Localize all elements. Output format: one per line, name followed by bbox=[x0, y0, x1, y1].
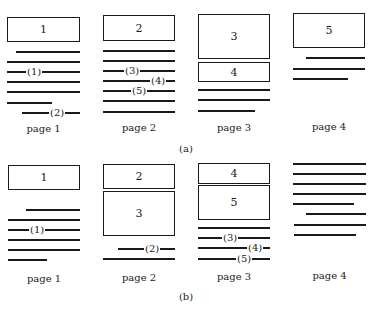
text-line bbox=[294, 224, 366, 226]
text-line bbox=[198, 227, 270, 229]
text-line bbox=[8, 249, 80, 251]
text-line bbox=[26, 209, 80, 211]
text-line bbox=[294, 234, 356, 236]
text-line bbox=[8, 239, 80, 241]
page-label: page 1 bbox=[4, 273, 84, 284]
figure-box: 1 bbox=[7, 17, 80, 42]
text-line bbox=[293, 163, 366, 165]
text-line bbox=[293, 203, 354, 205]
text-line bbox=[7, 102, 52, 104]
text-line bbox=[7, 81, 80, 83]
figure-box: 5 bbox=[293, 13, 365, 48]
text-line bbox=[7, 91, 80, 93]
figure-box: 4 bbox=[198, 163, 270, 184]
page-label: page 3 bbox=[194, 122, 274, 133]
text-line bbox=[293, 183, 366, 185]
subfigure-caption: (a) bbox=[166, 143, 206, 154]
text-line bbox=[293, 78, 348, 80]
page-label: page 2 bbox=[99, 272, 179, 283]
footnote-reference: (2) bbox=[49, 108, 65, 118]
text-line bbox=[8, 219, 80, 221]
page-label: page 2 bbox=[99, 122, 179, 133]
footnote-reference: (4) bbox=[150, 76, 166, 86]
text-line bbox=[306, 213, 366, 215]
text-line bbox=[293, 68, 365, 70]
footnote-reference: (3) bbox=[124, 66, 140, 76]
figure-box: 3 bbox=[198, 14, 270, 59]
text-line bbox=[7, 71, 80, 73]
footnote-reference: (2) bbox=[144, 244, 160, 254]
text-line bbox=[103, 100, 175, 102]
text-line bbox=[198, 258, 270, 260]
page-label: page 1 bbox=[4, 123, 84, 134]
text-line bbox=[293, 173, 366, 175]
page-label: page 4 bbox=[289, 121, 369, 132]
figure-box: 2 bbox=[103, 15, 175, 41]
footnote-reference: (1) bbox=[29, 225, 45, 235]
page-label: page 4 bbox=[290, 270, 370, 281]
figure-box: 2 bbox=[103, 164, 175, 189]
text-line bbox=[103, 50, 175, 52]
footnote-reference: (3) bbox=[222, 233, 238, 243]
footnote-reference: (1) bbox=[26, 67, 42, 77]
text-line bbox=[16, 51, 80, 53]
text-line bbox=[103, 60, 175, 62]
footnote-reference: (5) bbox=[236, 254, 252, 264]
figure-box: 4 bbox=[198, 62, 270, 82]
text-line bbox=[198, 110, 255, 112]
text-line bbox=[8, 259, 47, 261]
text-line bbox=[198, 99, 270, 101]
subfigure-caption: (b) bbox=[166, 291, 206, 302]
text-line bbox=[103, 258, 175, 260]
text-line bbox=[198, 89, 270, 91]
text-line bbox=[293, 193, 366, 195]
text-line bbox=[103, 111, 175, 113]
figure-box: 3 bbox=[103, 191, 175, 236]
text-line bbox=[306, 57, 365, 59]
figure-box: 5 bbox=[198, 185, 270, 220]
figure-box: 1 bbox=[8, 165, 80, 190]
footnote-reference: (5) bbox=[131, 86, 147, 96]
footnote-reference: (4) bbox=[247, 243, 263, 253]
page-label: page 3 bbox=[194, 271, 274, 282]
text-line bbox=[7, 61, 80, 63]
